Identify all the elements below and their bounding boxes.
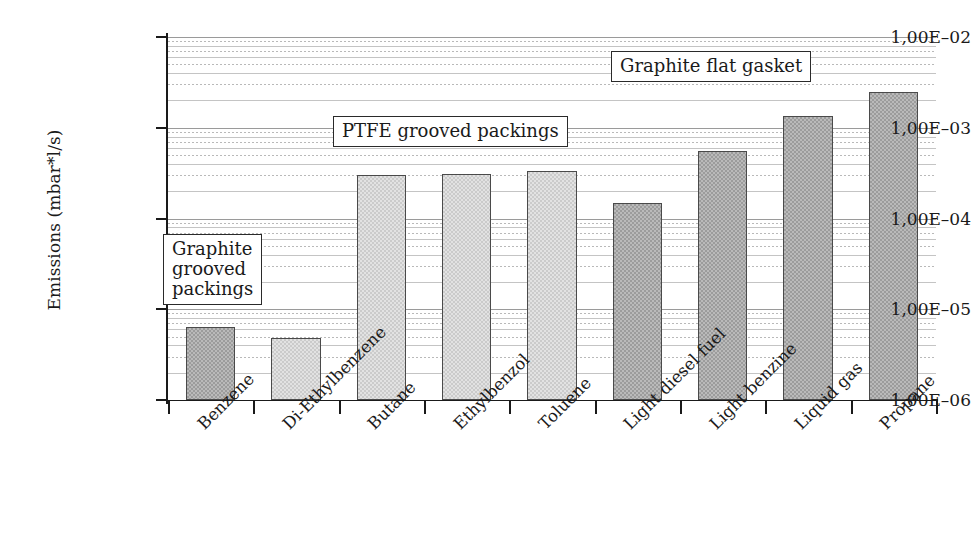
annotation-line: PTFE grooved packings — [342, 121, 559, 141]
y-axis-title: Emissions (mbar*l/s) — [44, 70, 64, 370]
x-axis-tick-mark — [595, 401, 597, 414]
x-axis-tick-mark — [851, 401, 853, 414]
bar-light-benzine — [698, 151, 747, 400]
x-axis-tick-mark — [424, 401, 426, 414]
gridline-minor — [168, 100, 936, 101]
annotation-line: packings — [172, 279, 253, 299]
y-axis-tick-label: 1,00E–03 — [819, 118, 971, 138]
x-axis-tick-mark — [168, 401, 170, 414]
gridline-minor — [168, 73, 936, 74]
annotation-line: grooved — [172, 259, 253, 279]
y-axis-tick-label: 1,00E–02 — [819, 27, 971, 47]
y-axis-tick-mark — [156, 36, 168, 38]
x-axis-tick-mark — [253, 401, 255, 414]
y-axis-tick-mark — [156, 218, 168, 220]
gridline-minor — [168, 57, 936, 58]
x-axis-tick-mark — [765, 401, 767, 414]
x-axis-tick-mark — [509, 401, 511, 414]
annotation-line: Graphite flat gasket — [620, 56, 802, 76]
annotation-graphite-grooved-packings: Graphitegroovedpackings — [163, 234, 262, 305]
y-axis-tick-label: 1,00E–04 — [819, 209, 971, 229]
bar-toluene — [527, 171, 576, 400]
y-axis-tick-mark — [156, 127, 168, 129]
annotation-line: Graphite — [172, 239, 253, 259]
x-axis-tick-mark — [680, 401, 682, 414]
annotation-graphite-flat-gasket: Graphite flat gasket — [611, 51, 811, 82]
emissions-bar-chart: Emissions (mbar*l/s) 1,00E–021,00E–031,0… — [0, 0, 971, 545]
bar-butane — [357, 175, 406, 400]
bar-ethylbenzol — [442, 174, 491, 400]
gridline-minor — [168, 64, 936, 65]
annotation-ptfe-grooved-packings: PTFE grooved packings — [333, 116, 568, 147]
y-axis-tick-mark — [156, 308, 168, 310]
x-axis-tick-mark — [936, 401, 938, 414]
bar-light-diesel-fuel — [613, 203, 662, 400]
bar-propane — [869, 92, 918, 400]
y-axis-tick-mark — [156, 399, 168, 401]
gridline-minor — [168, 84, 936, 85]
gridline-minor — [168, 51, 936, 52]
x-axis-tick-mark — [339, 401, 341, 414]
y-axis-tick-label: 1,00E–05 — [819, 299, 971, 319]
